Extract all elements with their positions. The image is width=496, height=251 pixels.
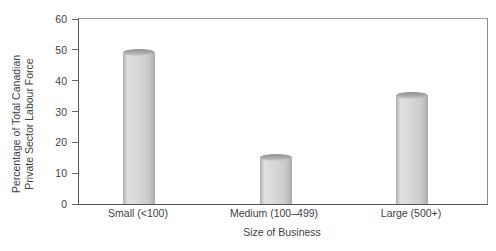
tick-mark: [72, 173, 78, 174]
x-axis-label-small: Small (<100): [108, 207, 168, 219]
tick-mark: [72, 19, 78, 20]
tick-label: 0: [39, 198, 67, 210]
x-axis-title: Size of Business: [243, 226, 321, 238]
tick-mark: [72, 142, 78, 143]
tick-label: 10: [39, 167, 67, 179]
x-axis-label-medium: Medium (100–499): [230, 207, 318, 219]
y-axis-title-line-1: Percentage of Total Canadian: [10, 24, 23, 224]
tick-mark: [72, 111, 78, 112]
tick-mark: [72, 49, 78, 50]
x-axis-label-large: Large (500+): [381, 207, 441, 219]
tick-label: 60: [39, 13, 67, 25]
tick-label: 40: [39, 75, 67, 87]
bar-chart-figure: Percentage of Total Canadian Private Sec…: [0, 0, 496, 251]
bar-large-business: [396, 93, 428, 204]
tick-label: 50: [39, 44, 67, 56]
tick-label: 30: [39, 106, 67, 118]
tick-mark: [72, 80, 78, 81]
plot-area: 60 50 40 30 20 10 0: [78, 18, 488, 205]
bar-medium-business: [260, 155, 292, 204]
tick-mark: [72, 204, 78, 205]
y-axis-title-line-2: Private Sector Labour Force: [23, 24, 36, 224]
bar-small-business: [123, 50, 155, 204]
y-axis-title: Percentage of Total Canadian Private Sec…: [10, 24, 36, 224]
tick-label: 20: [39, 136, 67, 148]
